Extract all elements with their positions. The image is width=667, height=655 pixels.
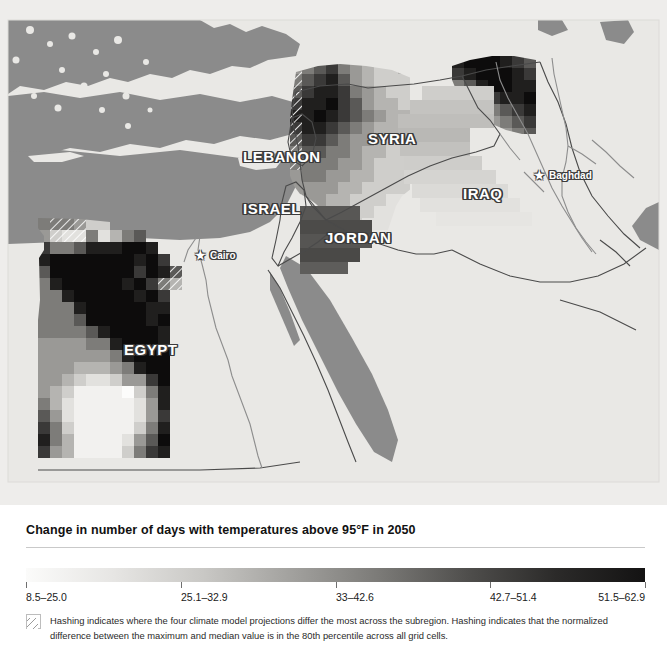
raster-cell bbox=[146, 290, 158, 302]
raster-cell bbox=[350, 170, 362, 182]
raster-cell bbox=[512, 104, 524, 116]
raster-cell bbox=[134, 362, 146, 374]
raster-cell bbox=[158, 326, 170, 338]
raster-cell bbox=[338, 194, 350, 206]
raster-cell bbox=[338, 110, 350, 122]
raster-cell bbox=[122, 422, 134, 434]
raster-cell bbox=[122, 446, 134, 458]
raster-cell bbox=[86, 266, 98, 278]
raster-cell bbox=[50, 398, 62, 410]
raster-cell bbox=[350, 122, 362, 134]
raster-cell bbox=[50, 338, 62, 350]
raster-cell bbox=[338, 86, 350, 98]
raster-cell bbox=[122, 374, 134, 386]
raster-cell bbox=[314, 98, 326, 110]
raster-cell bbox=[86, 338, 98, 350]
raster-cell bbox=[134, 314, 146, 326]
raster-cell bbox=[122, 398, 134, 410]
legend-divider bbox=[26, 547, 645, 548]
raster-cell bbox=[134, 446, 146, 458]
raster-cell bbox=[500, 116, 512, 128]
raster-cell bbox=[326, 74, 338, 86]
raster-cell-hashing bbox=[74, 218, 86, 230]
raster-cell bbox=[158, 410, 170, 422]
raster-cell bbox=[110, 362, 122, 374]
colorbar-tick-label: 8.5–25.0 bbox=[26, 591, 67, 603]
raster-cell bbox=[500, 68, 512, 80]
raster-cell bbox=[98, 290, 110, 302]
raster-cell bbox=[326, 158, 338, 170]
raster-cell bbox=[98, 374, 110, 386]
raster-cell bbox=[38, 422, 50, 434]
raster-cell bbox=[110, 398, 122, 410]
raster-cell bbox=[134, 422, 146, 434]
raster-cell bbox=[86, 350, 98, 362]
raster-cell bbox=[74, 422, 86, 434]
raster-cell bbox=[338, 170, 350, 182]
raster-cell bbox=[86, 374, 98, 386]
raster-cell bbox=[38, 374, 50, 386]
raster-cell bbox=[110, 338, 122, 350]
raster-cell bbox=[62, 350, 74, 362]
raster-cell bbox=[98, 254, 110, 266]
raster-cell bbox=[386, 170, 398, 182]
colorbar-tick-label: 25.1–32.9 bbox=[181, 591, 228, 603]
raster-cell bbox=[302, 134, 314, 146]
raster-cell bbox=[134, 254, 146, 266]
raster-cell bbox=[62, 290, 74, 302]
raster-cell bbox=[374, 158, 386, 170]
raster-cell bbox=[62, 386, 74, 398]
raster-cell bbox=[110, 266, 122, 278]
raster-cell bbox=[86, 242, 98, 254]
raster-cell bbox=[38, 398, 50, 410]
colorbar-tick-label: 42.7–51.4 bbox=[490, 591, 537, 603]
raster-cell bbox=[62, 278, 74, 290]
raster-cell bbox=[362, 110, 374, 122]
raster-cell bbox=[362, 98, 374, 110]
raster-cell bbox=[158, 350, 170, 362]
raster-cell bbox=[98, 242, 110, 254]
hashing-swatch-icon bbox=[26, 614, 41, 629]
raster-cell-hashing bbox=[290, 122, 302, 134]
raster-cell bbox=[98, 266, 110, 278]
colorbar-tick-label: 33–42.6 bbox=[336, 591, 374, 603]
raster-cell bbox=[146, 254, 158, 266]
raster-cell bbox=[98, 386, 110, 398]
raster-cell bbox=[146, 398, 158, 410]
raster-cell bbox=[122, 290, 134, 302]
raster-cell bbox=[314, 110, 326, 122]
raster-cell bbox=[158, 302, 170, 314]
raster-cell bbox=[302, 170, 314, 182]
raster-cell bbox=[74, 290, 86, 302]
raster-cell-hashing bbox=[158, 278, 170, 290]
colorbar-tick bbox=[26, 582, 27, 588]
colorbar-tick bbox=[181, 582, 182, 588]
raster-cell bbox=[524, 68, 536, 80]
raster-cell bbox=[326, 134, 338, 146]
raster-cell bbox=[524, 116, 536, 128]
raster-cell bbox=[38, 338, 50, 350]
raster-cell bbox=[524, 104, 536, 116]
raster-cell bbox=[122, 254, 134, 266]
raster-cell bbox=[362, 122, 374, 134]
raster-cell bbox=[134, 230, 146, 242]
raster-cell bbox=[314, 146, 326, 158]
raster-cell bbox=[362, 206, 374, 218]
raster-cell bbox=[74, 254, 86, 266]
raster-cell bbox=[86, 434, 98, 446]
raster-cell bbox=[338, 158, 350, 170]
raster-cell bbox=[86, 314, 98, 326]
raster-cell bbox=[350, 158, 362, 170]
raster-cell bbox=[158, 338, 170, 350]
raster-cell bbox=[512, 80, 524, 92]
raster-cell bbox=[146, 266, 158, 278]
raster-cell bbox=[38, 434, 50, 446]
raster-cell bbox=[386, 122, 398, 134]
raster-cell bbox=[386, 158, 398, 170]
raster-cell bbox=[362, 182, 374, 194]
map-canvas[interactable]: SYRIALEBANONIRAQISRAELJORDANEGYPT ★Cairo… bbox=[0, 0, 667, 505]
raster-cell bbox=[524, 80, 536, 92]
raster-cell bbox=[386, 194, 398, 206]
raster-cell bbox=[74, 398, 86, 410]
raster-cell bbox=[146, 410, 158, 422]
